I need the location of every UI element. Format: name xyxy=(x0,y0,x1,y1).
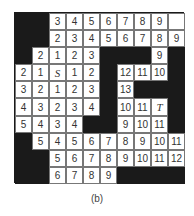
wall-cell xyxy=(117,47,134,64)
grid-cell: 7 xyxy=(134,30,151,47)
grid-cell: 3 xyxy=(66,30,83,47)
start-cell: S xyxy=(49,64,66,81)
grid-cell: 12 xyxy=(117,64,134,81)
grid-cell: 5 xyxy=(15,116,32,133)
grid-cell: 4 xyxy=(15,98,32,115)
grid-cell: 6 xyxy=(83,133,100,150)
grid-cell: 10 xyxy=(151,133,168,150)
grid-cell: 6 xyxy=(66,150,83,167)
wall-cell xyxy=(151,81,168,98)
grid-cell: 3 xyxy=(32,98,49,115)
grid-cell: 3 xyxy=(66,98,83,115)
grid-cell: 7 xyxy=(83,150,100,167)
wall-cell xyxy=(117,167,134,184)
wall-cell xyxy=(168,47,185,64)
grid-cell: 9 xyxy=(168,30,185,47)
wall-cell xyxy=(83,116,100,133)
grid-cell: 9 xyxy=(100,167,117,184)
grid-cell: 4 xyxy=(66,116,83,133)
grid-cell: 5 xyxy=(66,133,83,150)
grid-cell: 11 xyxy=(134,64,151,81)
wall-cell xyxy=(134,167,151,184)
grid-cell: 1 xyxy=(66,64,83,81)
wall-cell xyxy=(168,167,185,184)
wall-cell xyxy=(32,13,49,30)
wall-cell xyxy=(151,167,168,184)
grid-cell: 2 xyxy=(32,81,49,98)
grid-cell: 4 xyxy=(32,116,49,133)
grid-cell: 9 xyxy=(151,13,168,30)
grid-cell: 6 xyxy=(117,30,134,47)
grid-cell: 10 xyxy=(117,98,134,115)
target-cell: T xyxy=(151,98,168,115)
grid-cell: 11 xyxy=(134,98,151,115)
wall-cell xyxy=(15,47,32,64)
grid-cell: 4 xyxy=(49,133,66,150)
grid-cell: 5 xyxy=(32,133,49,150)
wall-cell xyxy=(32,167,49,184)
wall-cell xyxy=(168,98,185,115)
wall-cell xyxy=(15,13,32,30)
wall-cell xyxy=(100,64,117,81)
wall-cell xyxy=(100,116,117,133)
grid-cell: 10 xyxy=(134,116,151,133)
grid-cell: 7 xyxy=(117,13,134,30)
grid-cell: 8 xyxy=(100,150,117,167)
grid-cell: 2 xyxy=(15,64,32,81)
grid-cell: 6 xyxy=(100,13,117,30)
grid-cell: 10 xyxy=(151,64,168,81)
wall-cell xyxy=(100,47,117,64)
grid-cell: 2 xyxy=(83,64,100,81)
grid-cell: 4 xyxy=(83,30,100,47)
grid-cell: 5 xyxy=(49,150,66,167)
grid-cell: 8 xyxy=(83,167,100,184)
grid-cell: 2 xyxy=(66,47,83,64)
grid-cell: 3 xyxy=(15,81,32,98)
wall-cell xyxy=(15,133,32,150)
grid-cell: 2 xyxy=(66,81,83,98)
wall-cell xyxy=(15,150,32,167)
grid-cell: 11 xyxy=(151,150,168,167)
grid-cell: 5 xyxy=(83,13,100,30)
grid-cell: 13 xyxy=(117,81,134,98)
wall-cell xyxy=(100,81,117,98)
grid-cell: 4 xyxy=(83,98,100,115)
wall-cell xyxy=(100,98,117,115)
wall-cell xyxy=(32,30,49,47)
grid-cell: 11 xyxy=(168,133,185,150)
grid-cell: 9 xyxy=(117,150,134,167)
grid-cell xyxy=(168,13,185,30)
grid-cell: 1 xyxy=(49,47,66,64)
grid-cell: 2 xyxy=(49,98,66,115)
figure-caption: (b) xyxy=(0,193,194,204)
grid-cell: 3 xyxy=(83,47,100,64)
distance-grid: 3456789234567892123921S12121110321231343… xyxy=(14,12,184,183)
grid-cell: 9 xyxy=(151,47,168,64)
wall-cell xyxy=(15,30,32,47)
grid-cell: 12 xyxy=(168,150,185,167)
grid-cell: 7 xyxy=(66,167,83,184)
grid-cell: 2 xyxy=(32,47,49,64)
grid-cell: 7 xyxy=(100,133,117,150)
grid-cell: 5 xyxy=(100,30,117,47)
grid-cell: 4 xyxy=(66,13,83,30)
wall-cell xyxy=(168,81,185,98)
grid-cell: 8 xyxy=(117,133,134,150)
grid-cell: 3 xyxy=(49,13,66,30)
grid-cell: 11 xyxy=(151,116,168,133)
wall-cell xyxy=(134,47,151,64)
grid-cell: 8 xyxy=(134,13,151,30)
grid-cell: 3 xyxy=(49,116,66,133)
grid-cell: 8 xyxy=(151,30,168,47)
wall-cell xyxy=(15,167,32,184)
grid-cell: 1 xyxy=(32,64,49,81)
wall-cell xyxy=(168,64,185,81)
grid-cell: 9 xyxy=(134,133,151,150)
grid-cell: 9 xyxy=(117,116,134,133)
wall-cell xyxy=(134,81,151,98)
wall-cell xyxy=(168,116,185,133)
wall-cell xyxy=(32,150,49,167)
grid-cell: 2 xyxy=(49,30,66,47)
grid-cell: 6 xyxy=(49,167,66,184)
grid-cell: 1 xyxy=(49,81,66,98)
